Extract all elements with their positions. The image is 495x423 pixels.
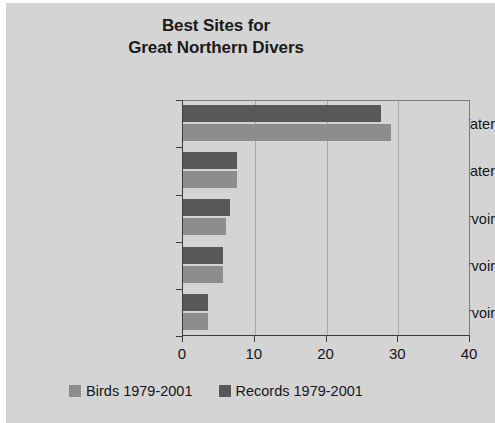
x-axis-tick	[326, 336, 327, 342]
chart-canvas: Best Sites for Great Northern Divers Dra…	[6, 3, 495, 423]
bar-group	[183, 148, 469, 195]
bar-group	[183, 101, 469, 148]
x-axis-label: 30	[372, 345, 422, 362]
x-axis-label: 20	[301, 345, 351, 362]
chart-title: Best Sites for Great Northern Divers	[6, 15, 426, 59]
plot-area	[182, 100, 470, 336]
bar-birds	[183, 218, 226, 235]
bar-birds	[183, 313, 208, 330]
x-axis-tick	[182, 336, 183, 342]
bar-records	[183, 199, 230, 216]
bar-records	[183, 294, 208, 311]
bar-records	[183, 152, 237, 169]
bar-records	[183, 247, 223, 264]
legend-label-birds: Birds 1979-2001	[86, 383, 192, 399]
chart-legend: Birds 1979-2001 Records 1979-2001	[6, 383, 426, 399]
bar-birds	[183, 171, 237, 188]
x-axis-label: 0	[157, 345, 207, 362]
bar-birds	[183, 124, 391, 141]
legend-entry-birds: Birds 1979-2001	[69, 383, 192, 399]
legend-label-records: Records 1979-2001	[236, 383, 363, 399]
x-axis-tick	[397, 336, 398, 342]
bar-records	[183, 105, 381, 122]
legend-swatch-birds	[69, 385, 81, 397]
bar-group	[183, 290, 469, 337]
bar-group	[183, 195, 469, 242]
x-axis-tick	[254, 336, 255, 342]
chart-title-line-2: Great Northern Divers	[6, 37, 426, 59]
x-axis-tick	[469, 336, 470, 342]
bar-birds	[183, 266, 223, 283]
x-axis-label: 10	[229, 345, 279, 362]
legend-swatch-records	[219, 385, 231, 397]
bar-group	[183, 243, 469, 290]
legend-entry-records: Records 1979-2001	[219, 383, 363, 399]
chart-title-line-1: Best Sites for	[6, 15, 426, 37]
x-axis-label: 40	[444, 345, 494, 362]
